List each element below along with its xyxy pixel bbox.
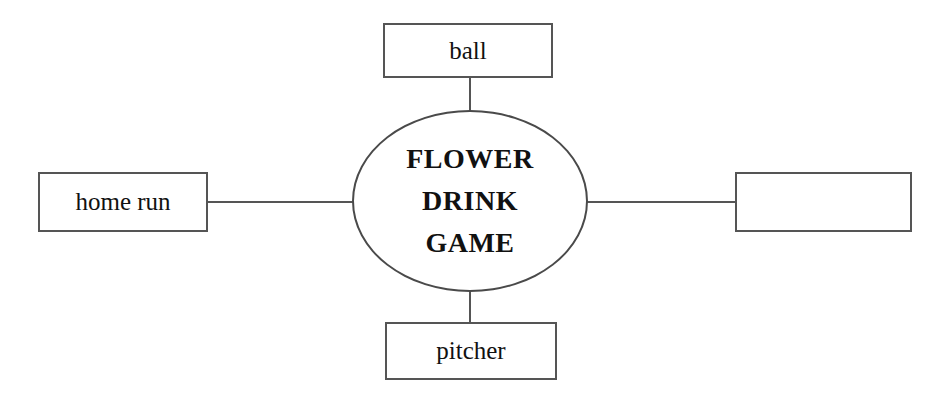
node-box-bottom[interactable]: pitcher	[385, 322, 557, 380]
node-label-top: ball	[449, 37, 487, 65]
center-line-1: FLOWER	[406, 145, 533, 173]
node-box-right-blank[interactable]	[735, 172, 912, 232]
diagram-canvas: FLOWER DRINK GAME ball home run pitcher	[0, 0, 943, 406]
node-label-left: home run	[75, 188, 170, 216]
center-line-2: DRINK	[422, 187, 518, 215]
node-box-top[interactable]: ball	[383, 23, 553, 78]
node-box-left[interactable]: home run	[38, 172, 208, 232]
center-node-ellipse: FLOWER DRINK GAME	[352, 110, 588, 292]
node-label-bottom: pitcher	[436, 337, 505, 365]
center-line-3: GAME	[425, 229, 514, 257]
